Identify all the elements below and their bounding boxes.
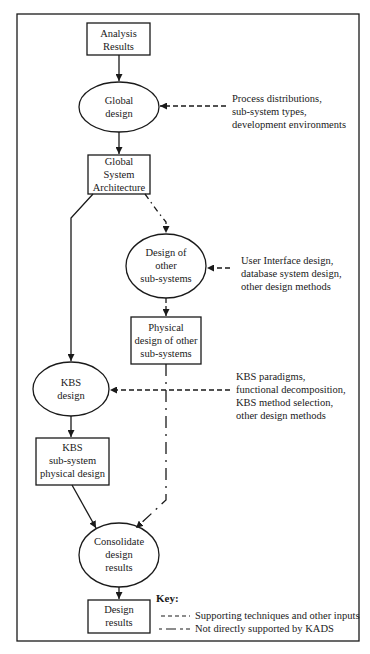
edge-kbs-physical-to-consolidate [72, 485, 96, 528]
note-line: User Interface design, [241, 254, 342, 267]
label-line: Design [88, 603, 150, 616]
analysis-results-label: Analysis Results [87, 27, 150, 53]
label-line: sub-systems [131, 347, 201, 360]
global-system-architecture-label: Global System Architecture [88, 155, 150, 194]
kbs-subsystem-physical-design-label: KBS sub-system physical design [36, 441, 109, 480]
label-line: Design of [126, 246, 206, 259]
label-line: physical design [36, 467, 109, 480]
note-line: KBS paradigms, [236, 370, 346, 383]
label-line: Global [88, 155, 150, 168]
label-line: design of other [131, 334, 201, 347]
global-design-inputs-note: Process distributions, sub-system types,… [232, 92, 346, 131]
label-line: Architecture [88, 181, 150, 194]
edge-physical-other-to-consolidate [136, 364, 166, 528]
note-line: database system design, [241, 267, 342, 280]
label-line: sub-systems [126, 272, 206, 285]
label-line: Results [87, 40, 150, 53]
note-line: sub-system types, [232, 105, 346, 118]
global-design-label: Global design [79, 94, 159, 120]
note-line: other design methods [241, 280, 342, 293]
label-line: Global [79, 94, 159, 107]
label-line: System [88, 168, 150, 181]
key-title: Key: [156, 592, 179, 604]
key-label-supporting: Supporting techniques and other inputs [195, 609, 359, 622]
note-line: functional decomposition, [236, 383, 346, 396]
edge-architecture-to-kbs-design [71, 194, 93, 361]
note-line: KBS method selection, [236, 396, 346, 409]
kbs-design-inputs-note: KBS paradigms, functional decomposition,… [236, 370, 346, 422]
note-line: other design methods [236, 409, 346, 422]
label-line: sub-system [36, 454, 109, 467]
label-line: design [79, 107, 159, 120]
label-line: results [79, 561, 159, 574]
key-label-not-supported: Not directly supported by KADS [195, 622, 334, 635]
label-line: design [79, 548, 159, 561]
label-line: KBS [33, 376, 109, 389]
label-line: results [88, 616, 150, 629]
edge-architecture-to-design-other [145, 194, 166, 233]
note-line: Process distributions, [232, 92, 346, 105]
physical-design-other-subsystems-label: Physical design of other sub-systems [131, 321, 201, 360]
consolidate-design-results-label: Consolidate design results [79, 535, 159, 574]
label-line: Consolidate [79, 535, 159, 548]
design-other-subsystems-label: Design of other sub-systems [126, 246, 206, 285]
design-other-inputs-note: User Interface design, database system d… [241, 254, 342, 293]
label-line: design [33, 389, 109, 402]
note-line: development environments [232, 118, 346, 131]
label-line: Analysis [87, 27, 150, 40]
design-results-label: Design results [88, 603, 150, 629]
kbs-design-label: KBS design [33, 376, 109, 402]
label-line: KBS [36, 441, 109, 454]
label-line: Physical [131, 321, 201, 334]
label-line: other [126, 259, 206, 272]
